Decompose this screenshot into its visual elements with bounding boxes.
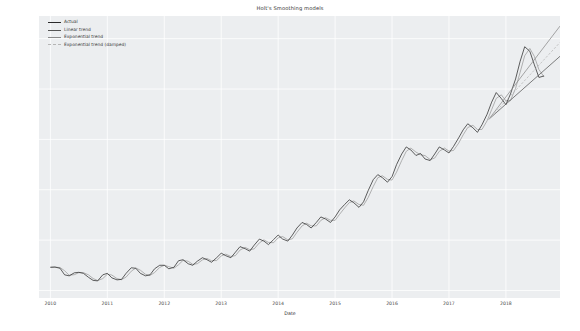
figure: Holt's Smoothing models Actual Linear tr… bbox=[0, 0, 580, 331]
legend-item[interactable]: Exponential trend (damped) bbox=[48, 41, 126, 48]
x-tick-label: 2018 bbox=[486, 301, 526, 306]
data-lines bbox=[39, 16, 560, 298]
legend-item[interactable]: Linear trend bbox=[48, 26, 126, 33]
legend-swatch-exponential bbox=[48, 37, 61, 38]
x-tick-label: 2011 bbox=[87, 301, 127, 306]
x-tick-label: 2016 bbox=[372, 301, 412, 306]
x-tick-label: 2017 bbox=[429, 301, 469, 306]
legend-label-damped: Exponential trend (damped) bbox=[64, 43, 126, 47]
legend-swatch-damped bbox=[48, 44, 61, 45]
legend-label-actual: Actual bbox=[64, 20, 78, 24]
legend-label-linear: Linear trend bbox=[64, 28, 91, 32]
x-tick-label: 2012 bbox=[144, 301, 184, 306]
legend-swatch-linear bbox=[48, 30, 61, 31]
x-axis-label: Date bbox=[0, 311, 580, 316]
x-tick-label: 2013 bbox=[201, 301, 241, 306]
chart-title: Holt's Smoothing models bbox=[0, 5, 580, 11]
x-tick-label: 2015 bbox=[315, 301, 355, 306]
legend-item[interactable]: Exponential trend bbox=[48, 34, 126, 41]
x-tick-label: 2010 bbox=[30, 301, 70, 306]
legend-swatch-actual bbox=[48, 22, 61, 23]
x-tick-label: 2014 bbox=[258, 301, 298, 306]
legend: Actual Linear trend Exponential trend Ex… bbox=[48, 19, 126, 49]
legend-label-exponential: Exponential trend bbox=[64, 35, 103, 39]
legend-item[interactable]: Actual bbox=[48, 19, 126, 26]
plot-area: Actual Linear trend Exponential trend Ex… bbox=[39, 16, 560, 298]
